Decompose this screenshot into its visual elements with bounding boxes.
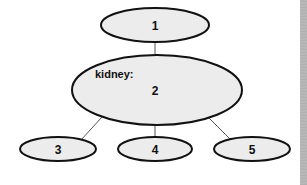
node-5-label: 5: [249, 143, 256, 157]
node-2-label: 2: [152, 84, 159, 98]
node-4: 4: [118, 137, 192, 161]
node-1: 1: [101, 8, 209, 42]
node-1-label: 1: [152, 19, 159, 33]
edge-2-3: [81, 117, 102, 140]
node-2-heading: kidney:: [95, 68, 134, 80]
concept-map: 1 kidney: 2 3 4 5: [0, 0, 307, 185]
node-5: 5: [214, 137, 290, 161]
node-4-label: 4: [152, 143, 159, 157]
node-3-label: 3: [55, 143, 62, 157]
edge-2-5: [208, 117, 230, 139]
node-3: 3: [20, 137, 96, 161]
node-2: kidney: 2: [72, 55, 242, 125]
